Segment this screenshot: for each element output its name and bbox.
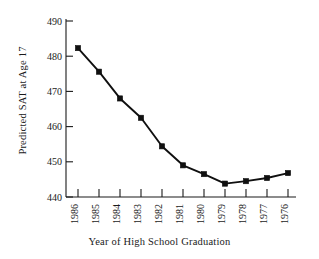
x-tick-label: 1983 <box>132 204 143 224</box>
data-point-marker <box>285 170 290 175</box>
x-tick-label: 1977 <box>258 204 269 224</box>
x-tick-label: 1980 <box>195 204 206 224</box>
line-chart-plot: 440450460470480490 198619851984198319821… <box>0 0 319 259</box>
y-tick-label: 440 <box>47 192 62 203</box>
data-point-marker <box>201 172 206 177</box>
data-point-marker <box>243 179 248 184</box>
x-tick-label: 1981 <box>174 204 185 224</box>
y-tick-label: 490 <box>47 16 62 27</box>
y-tick-label: 450 <box>47 156 62 167</box>
x-tick-label-group: 1986198519841983198219811980197919781977… <box>69 204 290 224</box>
x-tick-label: 1979 <box>216 204 227 224</box>
chart-figure: Predicted SAT at Age 17 4404504604704804… <box>0 0 319 259</box>
data-point-marker <box>264 175 269 180</box>
x-tick-label: 1986 <box>69 204 80 224</box>
data-point-marker <box>222 181 227 186</box>
x-tick-label: 1978 <box>237 204 248 224</box>
x-tick-label: 1985 <box>90 204 101 224</box>
x-tick-label: 1976 <box>279 204 290 224</box>
y-tick-label: 480 <box>47 51 62 62</box>
x-axis-title: Year of High School Graduation <box>0 236 319 247</box>
data-point-marker <box>138 115 143 120</box>
data-point-marker <box>75 46 80 51</box>
y-tick-label: 460 <box>47 121 62 132</box>
y-tick-label-group: 440450460470480490 <box>47 16 62 203</box>
data-point-marker <box>117 96 122 101</box>
y-tick-mark-group <box>66 21 73 197</box>
y-tick-label: 470 <box>47 86 62 97</box>
x-tick-mark-group <box>78 189 288 197</box>
series-marker-group <box>75 46 290 187</box>
x-tick-label: 1982 <box>153 204 164 224</box>
data-point-marker <box>96 69 101 74</box>
data-point-marker <box>180 163 185 168</box>
x-tick-label: 1984 <box>111 204 122 224</box>
data-point-marker <box>159 144 164 149</box>
